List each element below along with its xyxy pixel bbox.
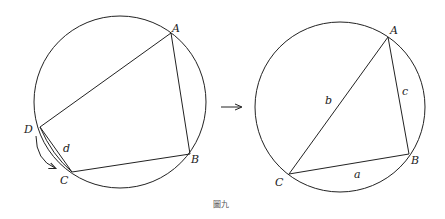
right-figure xyxy=(255,22,425,192)
left-label-d: d xyxy=(63,142,70,155)
right-label-C: C xyxy=(275,176,284,189)
right-label-a: a xyxy=(354,168,361,181)
left-label-D: D xyxy=(23,123,33,136)
left-label-A: A xyxy=(171,22,180,35)
left-label-C: C xyxy=(60,174,69,187)
right-label-B: B xyxy=(410,154,419,167)
right-label-c: c xyxy=(402,85,408,98)
right-label-A: A xyxy=(389,24,398,37)
figure-caption: 圖九 xyxy=(213,200,229,209)
left-circle xyxy=(34,16,206,188)
left-figure xyxy=(34,16,206,188)
right-circle xyxy=(255,22,425,192)
right-triangle xyxy=(289,37,409,174)
left-label-B: B xyxy=(190,153,199,166)
rotation-arrow xyxy=(36,136,55,168)
right-label-b: b xyxy=(325,94,332,107)
diagram-canvas: A B C D d A B C a b c 圖九 xyxy=(0,0,445,219)
